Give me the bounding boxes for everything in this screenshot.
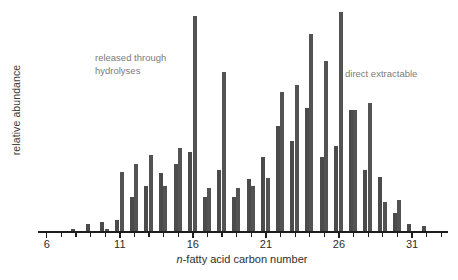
- bar-c13-series-2: [149, 155, 153, 232]
- bar-c14-series-2: [163, 186, 167, 232]
- bar-c19-series-2: [236, 188, 240, 232]
- bar-c21-series-1: [261, 157, 265, 232]
- bar-c23-series-1: [290, 141, 294, 232]
- x-tick-9: [90, 232, 91, 237]
- x-tick-21: [265, 232, 266, 238]
- x-tick-10: [105, 232, 106, 237]
- bar-c16-series-1: [188, 152, 192, 232]
- x-tick-label-26: 26: [333, 238, 345, 250]
- fatty-acid-abundance-chart: relative abundance 61116212631 released …: [0, 0, 458, 280]
- bar-c20-series-1: [247, 179, 251, 232]
- bar-c14-series-1: [159, 173, 163, 232]
- x-tick-14: [163, 232, 164, 237]
- bar-c29-series-1: [378, 177, 382, 232]
- bar-c26-series-1: [334, 146, 338, 232]
- x-tick-15: [178, 232, 179, 237]
- x-tick-33: [441, 232, 442, 237]
- x-tick-18: [221, 232, 222, 237]
- bar-c20-series-2: [251, 186, 255, 232]
- bar-c18-series-1: [217, 170, 221, 232]
- x-tick-label-11: 11: [114, 238, 125, 250]
- bar-c21-series-2: [266, 178, 270, 232]
- annotation-direct-extractable: direct extractable: [345, 68, 417, 81]
- x-tick-label-6: 6: [44, 238, 50, 250]
- x-tick-26: [338, 232, 339, 238]
- plot-area: [38, 8, 450, 232]
- x-tick-30: [397, 232, 398, 237]
- x-tick-8: [75, 232, 76, 237]
- bar-c24-series-2: [309, 34, 313, 232]
- x-tick-17: [207, 232, 208, 237]
- x-tick-16: [192, 232, 193, 238]
- bar-c30-series-1: [393, 213, 397, 232]
- x-tick-7: [61, 232, 62, 237]
- bar-c29-series-2: [383, 202, 387, 232]
- x-tick-24: [309, 232, 310, 237]
- x-tick-19: [236, 232, 237, 237]
- x-tick-6: [46, 232, 47, 238]
- x-tick-27: [353, 232, 354, 237]
- bar-c17-series-1: [203, 197, 207, 232]
- x-tick-label-16: 16: [187, 238, 199, 250]
- x-tick-25: [324, 232, 325, 237]
- bar-c17-series-2: [207, 188, 211, 232]
- x-axis-label: n-fatty acid carbon number: [36, 253, 448, 265]
- bar-c22-series-1: [276, 126, 280, 232]
- bar-c23-series-2: [295, 85, 299, 232]
- bar-c15-series-1: [174, 164, 178, 232]
- bar-c24-series-1: [305, 108, 309, 232]
- x-tick-label-31: 31: [406, 238, 418, 250]
- x-tick-29: [382, 232, 383, 237]
- bar-c27-series-1: [349, 110, 353, 232]
- bar-c19-series-1: [232, 197, 236, 232]
- bar-c16-series-2: [193, 16, 197, 232]
- bar-series-container: [38, 8, 450, 232]
- bar-c25-series-2: [324, 61, 328, 232]
- x-tick-11: [119, 232, 120, 238]
- x-tick-label-21: 21: [260, 238, 272, 250]
- bar-c28-series-1: [363, 170, 367, 232]
- bar-c28-series-2: [368, 103, 372, 232]
- bar-c22-series-2: [280, 92, 284, 232]
- x-axis-label-rest: -fatty acid carbon number: [183, 253, 308, 265]
- bar-c12-series-1: [130, 197, 134, 232]
- x-tick-28: [368, 232, 369, 237]
- x-tick-20: [251, 232, 252, 237]
- x-tick-32: [426, 232, 427, 237]
- y-axis-label: relative abundance: [10, 45, 22, 175]
- bar-c13-series-1: [144, 186, 148, 232]
- bar-c27-series-2: [353, 110, 357, 232]
- bar-c15-series-2: [178, 148, 182, 232]
- bar-c30-series-2: [397, 200, 401, 232]
- x-tick-22: [280, 232, 281, 237]
- bar-c12-series-2: [134, 164, 138, 232]
- bar-c26-series-2: [339, 12, 343, 232]
- x-tick-23: [295, 232, 296, 237]
- x-tick-13: [148, 232, 149, 237]
- annotation-released-through-hydrolyses: released through hydrolyses: [95, 52, 166, 77]
- x-tick-12: [134, 232, 135, 237]
- x-tick-31: [411, 232, 412, 238]
- bar-c11-series-2: [120, 172, 124, 232]
- bar-c25-series-1: [320, 157, 324, 232]
- bar-c18-series-2: [222, 72, 226, 232]
